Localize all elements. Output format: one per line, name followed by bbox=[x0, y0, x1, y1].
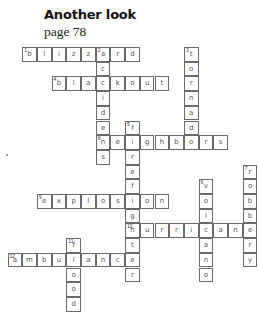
crossword-cell[interactable]: l bbox=[199, 209, 214, 224]
crossword-cell[interactable]: a bbox=[81, 253, 96, 268]
cell-letter: s bbox=[214, 138, 227, 146]
crossword-cell[interactable]: o bbox=[125, 76, 140, 91]
crossword-cell[interactable]: a bbox=[213, 223, 228, 238]
crossword-cell[interactable]: b bbox=[37, 253, 52, 268]
crossword-cell[interactable]: r bbox=[125, 268, 140, 283]
cell-letter: l bbox=[82, 197, 95, 205]
crossword-cell[interactable]: s bbox=[213, 135, 228, 150]
crossword-cell[interactable]: i bbox=[125, 135, 140, 150]
crossword-cell[interactable]: o bbox=[140, 194, 155, 209]
crossword-cell[interactable]: s bbox=[96, 150, 111, 165]
crossword-cell[interactable]: d bbox=[96, 106, 111, 121]
crossword-cell[interactable]: l bbox=[66, 76, 81, 91]
crossword-cell[interactable]: 9e bbox=[37, 194, 52, 209]
cell-letter: a bbox=[9, 256, 22, 264]
crossword-cell[interactable]: 8n bbox=[96, 135, 111, 150]
crossword-cell[interactable]: 12a bbox=[8, 253, 23, 268]
crossword-cell[interactable]: r bbox=[184, 76, 199, 91]
crossword-cell[interactable]: n bbox=[155, 194, 170, 209]
cell-letter: r bbox=[185, 79, 198, 87]
crossword-cell[interactable]: u bbox=[140, 76, 155, 91]
crossword-cell[interactable]: c bbox=[96, 76, 111, 91]
crossword-cell[interactable]: i bbox=[52, 47, 67, 62]
crossword-cell[interactable]: t bbox=[155, 76, 170, 91]
crossword-cell[interactable]: h bbox=[155, 135, 170, 150]
crossword-cell[interactable]: c bbox=[110, 253, 125, 268]
crossword-cell[interactable]: l bbox=[81, 194, 96, 209]
crossword-cell[interactable]: r bbox=[199, 135, 214, 150]
crossword-cell[interactable]: o bbox=[243, 179, 258, 194]
crossword-cell[interactable]: y bbox=[243, 253, 258, 268]
cell-letter: o bbox=[67, 271, 80, 279]
crossword-cell[interactable]: m bbox=[22, 253, 37, 268]
crossword-cell[interactable]: e bbox=[125, 165, 140, 180]
crossword-cell[interactable]: t bbox=[125, 238, 140, 253]
cell-letter: o bbox=[97, 197, 110, 205]
crossword-cell[interactable]: o bbox=[184, 62, 199, 77]
cell-letter: n bbox=[97, 256, 110, 264]
crossword-cell[interactable]: n bbox=[199, 253, 214, 268]
crossword-cell[interactable]: k bbox=[110, 76, 125, 91]
crossword-cell[interactable]: d bbox=[125, 47, 140, 62]
crossword-cell[interactable]: p bbox=[66, 194, 81, 209]
crossword-cell[interactable]: g bbox=[125, 209, 140, 224]
cell-letter: u bbox=[141, 79, 154, 87]
crossword-cell[interactable]: n bbox=[96, 253, 111, 268]
crossword-cell[interactable]: r bbox=[125, 150, 140, 165]
crossword-cell[interactable]: g bbox=[140, 135, 155, 150]
crossword-cell[interactable]: u bbox=[140, 223, 155, 238]
crossword-cell[interactable]: e bbox=[243, 223, 258, 238]
crossword-cell[interactable]: a bbox=[81, 76, 96, 91]
crossword-cell[interactable]: 3t bbox=[184, 47, 199, 62]
crossword-cell[interactable]: r bbox=[110, 47, 125, 62]
crossword-cell[interactable]: e bbox=[110, 135, 125, 150]
crossword-cell[interactable]: e bbox=[125, 253, 140, 268]
crossword-cell[interactable]: f bbox=[125, 179, 140, 194]
cell-letter: d bbox=[97, 109, 110, 117]
crossword-cell[interactable]: n bbox=[228, 223, 243, 238]
cell-letter: e bbox=[126, 256, 139, 264]
crossword-cell[interactable]: 2a bbox=[96, 47, 111, 62]
crossword-cell[interactable]: b bbox=[169, 135, 184, 150]
crossword-cell[interactable]: c bbox=[96, 62, 111, 77]
crossword-cell[interactable]: z bbox=[81, 47, 96, 62]
crossword-cell[interactable]: b bbox=[243, 194, 258, 209]
crossword-cell[interactable]: o bbox=[184, 135, 199, 150]
crossword-cell[interactable]: i bbox=[184, 223, 199, 238]
crossword-cell[interactable]: 11f bbox=[66, 238, 81, 253]
crossword-cell[interactable]: b bbox=[243, 209, 258, 224]
crossword-cell[interactable]: c bbox=[199, 223, 214, 238]
crossword-cell[interactable]: o bbox=[66, 282, 81, 297]
crossword-cell[interactable]: 6v bbox=[199, 179, 214, 194]
crossword-cell[interactable]: 4b bbox=[52, 76, 67, 91]
crossword-cell[interactable]: r bbox=[155, 223, 170, 238]
crossword-cell[interactable]: n bbox=[184, 91, 199, 106]
crossword-cell[interactable]: l bbox=[37, 47, 52, 62]
crossword-cell[interactable]: e bbox=[96, 121, 111, 136]
crossword-cell[interactable]: i bbox=[125, 194, 140, 209]
crossword-cell[interactable]: a bbox=[199, 238, 214, 253]
crossword-cell[interactable]: o bbox=[199, 268, 214, 283]
crossword-cell[interactable]: z bbox=[66, 47, 81, 62]
cell-letter: n bbox=[97, 138, 110, 146]
crossword-cell[interactable]: o bbox=[199, 194, 214, 209]
crossword-cell[interactable]: 10h bbox=[125, 223, 140, 238]
crossword-cell[interactable]: r bbox=[169, 223, 184, 238]
crossword-cell[interactable]: s bbox=[110, 194, 125, 209]
crossword-cell[interactable]: 5f bbox=[125, 121, 140, 136]
crossword-cell[interactable]: l bbox=[66, 253, 81, 268]
crossword-cell[interactable]: d bbox=[184, 121, 199, 136]
crossword-cell[interactable]: x bbox=[52, 194, 67, 209]
crossword-cell[interactable]: 1b bbox=[22, 47, 37, 62]
crossword-cell[interactable]: 7r bbox=[243, 165, 258, 180]
crossword-cell[interactable]: d bbox=[66, 297, 81, 312]
cell-letter: r bbox=[126, 271, 139, 279]
crossword-cell[interactable]: a bbox=[184, 106, 199, 121]
crossword-cell[interactable]: u bbox=[52, 253, 67, 268]
cell-letter: a bbox=[185, 109, 198, 117]
crossword-cell[interactable]: o bbox=[66, 268, 81, 283]
crossword-cell[interactable]: i bbox=[96, 91, 111, 106]
cell-letter: o bbox=[185, 138, 198, 146]
crossword-cell[interactable]: r bbox=[243, 238, 258, 253]
crossword-cell[interactable]: o bbox=[96, 194, 111, 209]
